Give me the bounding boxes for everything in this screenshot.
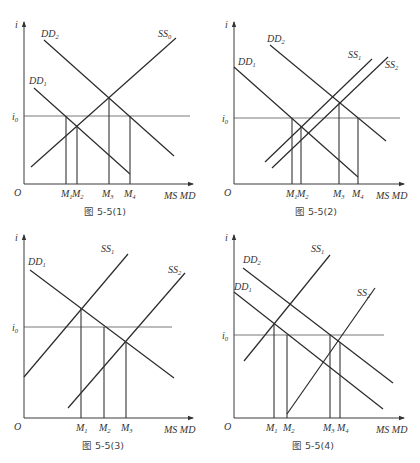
i0-label: i0 [222, 113, 229, 125]
m3-label: M3 [332, 188, 345, 200]
figure-5-5-4: i i0 O DD2 DD1 SS1 SS2 M1 M2 M3 M4 MS MD… [222, 232, 408, 451]
x-axis-label: MS MD [375, 190, 408, 201]
x-axis-label: MS MD [375, 424, 408, 435]
y-axis-label: i [225, 19, 228, 30]
m2-label: M2 [98, 422, 111, 434]
dd1-label: DD1 [27, 256, 46, 268]
figure-5-5-2: i i0 O DD2 DD1 SS1 SS2 M1 M2 M3 M4 MS MD… [222, 19, 408, 217]
m1-label: M1 [285, 188, 298, 200]
ss1-label: SS1 [101, 243, 114, 255]
ss2-label: SS2 [385, 59, 399, 71]
i0-label: i0 [222, 330, 229, 342]
m2-label: M2 [296, 188, 309, 200]
ss1-label: SS1 [348, 49, 361, 61]
origin-label: O [14, 421, 21, 432]
figure-caption: 图 5-5(2) [295, 206, 337, 217]
ss1-label: SS1 [311, 243, 324, 255]
m1-label: M1 [265, 422, 278, 434]
dd1-label: DD1 [233, 281, 252, 293]
y-axis-label: i [15, 232, 18, 243]
m4-label: M4 [336, 422, 349, 434]
dd2-curve [243, 268, 393, 383]
m1-label: M1 [75, 422, 88, 434]
ss1-curve [265, 59, 372, 162]
m1-label: M1 [60, 188, 73, 200]
dd2-curve [270, 45, 386, 141]
dd2-label: DD2 [40, 28, 59, 40]
ss0-curve [31, 38, 176, 167]
m3-label: M3 [101, 188, 114, 200]
i0-label: i0 [12, 111, 19, 123]
ss2-label: SS2 [168, 264, 182, 276]
figure-5-5-3: i i0 O DD1 SS1 SS2 M1 M2 M3 MS MD 图 5-5(… [12, 232, 196, 451]
ss2-label: SS2 [357, 287, 371, 299]
m3-label: M3 [322, 422, 335, 434]
figure-caption: 图 5-5(4) [292, 440, 334, 451]
m4-label: M4 [351, 188, 364, 200]
dd1-curve [30, 270, 174, 378]
figure-caption: 图 5-5(1) [84, 206, 126, 217]
m4-label: M4 [123, 188, 136, 200]
dd1-label: DD1 [28, 75, 47, 87]
m3-label: M3 [120, 422, 133, 434]
ss0-label: SS0 [158, 28, 172, 40]
origin-label: O [14, 187, 21, 198]
origin-label: O [224, 421, 231, 432]
y-axis-label: i [225, 232, 228, 243]
y-axis-label: i [15, 19, 18, 30]
figure-caption: 图 5-5(3) [82, 440, 124, 451]
origin-label: O [224, 187, 231, 198]
m2-label: M2 [282, 422, 295, 434]
x-axis-label: MS MD [163, 190, 196, 201]
i0-label: i0 [12, 322, 19, 334]
m2-label: M2 [71, 188, 84, 200]
figure-5-5-1: i i0 O DD2 DD1 SS0 M1 M2 M3 M4 MS MD 图 5… [12, 19, 196, 217]
dd1-label: DD1 [237, 56, 256, 68]
dd2-label: DD2 [242, 254, 261, 266]
money-market-diagrams: i i0 O DD2 DD1 SS0 M1 M2 M3 M4 MS MD 图 5… [0, 0, 420, 463]
ss2-curve [272, 57, 388, 168]
ss2-curve [287, 288, 375, 414]
x-axis-label: MS MD [163, 424, 196, 435]
ss1-curve [24, 254, 128, 377]
dd2-label: DD2 [266, 33, 285, 45]
dd1-curve [34, 88, 130, 174]
